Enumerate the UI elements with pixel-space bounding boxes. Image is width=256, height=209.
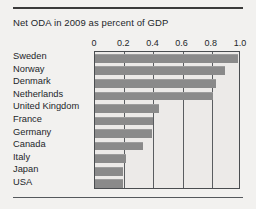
y-tick-label: France	[13, 114, 90, 124]
x-tick-label: 1.0	[234, 38, 247, 48]
y-tick-label: Italy	[13, 152, 90, 162]
y-tick-label: Netherlands	[13, 89, 90, 99]
y-tick-label: Germany	[13, 127, 90, 137]
divider-bottom	[13, 197, 243, 198]
y-tick-label: Japan	[13, 164, 90, 174]
x-tick-label: 0.4	[146, 38, 159, 48]
plot-area	[94, 51, 240, 189]
x-tick-label: 0.6	[175, 38, 188, 48]
x-tick-label: 0.8	[205, 38, 218, 48]
y-tick-label: Sweden	[13, 51, 90, 61]
bar	[95, 66, 225, 75]
x-axis-tick-labels: 00.20.40.60.81.0	[94, 38, 240, 50]
y-axis-category-labels: SwedenNorwayDenmarkNetherlandsUnited Kin…	[13, 51, 92, 189]
bar	[95, 167, 123, 176]
bar	[95, 104, 159, 113]
bar	[95, 129, 152, 138]
y-tick-label: United Kingdom	[13, 101, 90, 111]
y-tick-label: USA	[13, 177, 90, 187]
y-tick-label: Canada	[13, 139, 90, 149]
bar	[95, 92, 213, 101]
divider-top	[13, 7, 243, 9]
bar	[95, 117, 153, 126]
figure: Net ODA in 2009 as percent of GDP 00.20.…	[0, 0, 256, 209]
x-tick-label: 0	[91, 38, 96, 48]
x-tick-label: 0.2	[117, 38, 130, 48]
bar	[95, 179, 123, 188]
chart-title: Net ODA in 2009 as percent of GDP	[13, 17, 168, 28]
bar	[95, 54, 238, 63]
y-tick-label: Norway	[13, 64, 90, 74]
bar	[95, 142, 143, 151]
bar	[95, 79, 216, 88]
y-tick-label: Denmark	[13, 76, 90, 86]
bar-series	[95, 52, 239, 188]
bar	[95, 154, 126, 163]
